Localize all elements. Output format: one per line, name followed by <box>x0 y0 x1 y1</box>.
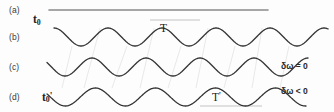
guide-line-4 <box>168 46 181 88</box>
trace-c <box>47 58 308 76</box>
period-T-prime-annotation: T' <box>212 90 221 103</box>
guide-line-0 <box>62 46 72 88</box>
trace-d <box>47 88 306 106</box>
condition-label-d: δω < 0 <box>281 86 308 96</box>
guide-line-6 <box>224 46 235 88</box>
physics-waveform-figure: (a) (b) (c) (d) t0 t0' T T' δω = 0 δω < … <box>0 0 334 112</box>
row-label-b: (b) <box>9 32 20 42</box>
t0-annotation: t0 <box>33 13 41 27</box>
row-label-c: (c) <box>9 62 19 72</box>
period-T-prime-base: T <box>212 91 219 103</box>
t0-prime-annotation: t0' <box>42 90 52 104</box>
condition-label-c: δω = 0 <box>281 61 308 71</box>
row-label-d: (d) <box>9 92 20 102</box>
period-T-prime-mark: ' <box>219 90 221 101</box>
t0-prime-mark: ' <box>50 90 53 101</box>
row-label-a: (a) <box>9 5 20 15</box>
trace-b <box>54 28 328 46</box>
t0-subscript: 0 <box>37 18 41 27</box>
guide-line-2 <box>112 46 127 88</box>
period-T-annotation: T <box>160 22 167 34</box>
